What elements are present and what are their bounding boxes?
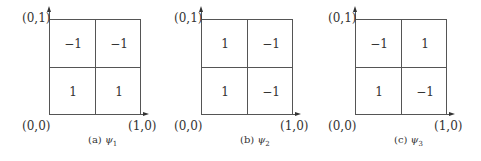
coord-top-left: (0,1)	[22, 11, 50, 25]
unit-square: −1 −1 1 1	[49, 19, 141, 115]
cell-top-right: 1	[402, 20, 448, 68]
caption-label: (c)	[394, 134, 407, 145]
x-axis-arrow-icon	[295, 112, 301, 116]
cell-top-left: −1	[356, 20, 402, 68]
coord-origin: (0,0)	[22, 119, 50, 133]
caption: (c) ψ3	[394, 134, 423, 148]
x-axis-arrow-icon	[449, 112, 455, 116]
panel-psi1: −1 −1 1 1 (0,1) (0,0) (1,0) (a) ψ1	[0, 0, 160, 161]
caption-sub: 3	[418, 140, 422, 148]
cell-bottom-left: 1	[202, 68, 248, 116]
caption-label: (a)	[88, 134, 102, 145]
unit-square: −1 1 1 −1	[355, 19, 447, 115]
caption-func: ψ	[105, 134, 113, 145]
coord-top-left: (0,1)	[328, 11, 356, 25]
cell-top-right: −1	[96, 20, 142, 68]
cell-bottom-right: 1	[96, 68, 142, 116]
cell-bottom-left: 1	[50, 68, 96, 116]
cell-top-left: −1	[50, 20, 96, 68]
coord-bottom-right: (1,0)	[434, 119, 462, 133]
caption: (a) ψ1	[88, 134, 117, 148]
cell-bottom-left: 1	[356, 68, 402, 116]
caption: (b) ψ2	[240, 134, 270, 148]
cell-bottom-right: −1	[248, 68, 294, 116]
coord-top-left: (0,1)	[174, 11, 202, 25]
caption-sub: 2	[265, 140, 269, 148]
coord-origin: (0,0)	[328, 119, 356, 133]
unit-square: 1 −1 1 −1	[201, 19, 293, 115]
panel-psi2: 1 −1 1 −1 (0,1) (0,0) (1,0) (b) ψ2	[152, 0, 312, 161]
coord-origin: (0,0)	[174, 119, 202, 133]
cell-top-left: 1	[202, 20, 248, 68]
cell-top-right: −1	[248, 20, 294, 68]
panel-psi3: −1 1 1 −1 (0,1) (0,0) (1,0) (c) ψ3	[306, 0, 466, 161]
x-axis-arrow-icon	[143, 112, 149, 116]
caption-sub: 1	[113, 140, 117, 148]
caption-label: (b)	[240, 134, 254, 145]
coord-bottom-right: (1,0)	[280, 119, 308, 133]
cell-bottom-right: −1	[402, 68, 448, 116]
